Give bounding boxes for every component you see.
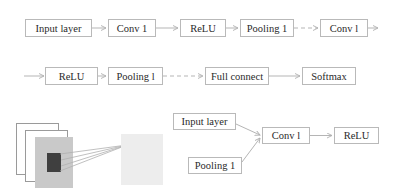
node-label: Pooling 1 <box>195 160 236 171</box>
node-label: Conv l <box>272 130 300 141</box>
bottom-relu-box: ReLU <box>334 127 379 144</box>
bottom-convl-box: Conv l <box>262 127 310 144</box>
output-feature-panel <box>121 134 163 185</box>
bottom-pooling1-box: Pooling 1 <box>188 157 242 174</box>
node-label: Input layer <box>182 116 228 127</box>
bottom-input-layer-box: Input layer <box>173 113 236 130</box>
node-label: ReLU <box>344 130 370 141</box>
